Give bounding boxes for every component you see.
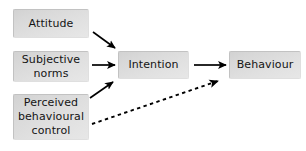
node-perceived-behavioural-control-label: Perceived behavioural control <box>15 96 87 138</box>
node-subjective-norms-label: Subjective norms <box>19 53 83 81</box>
edge-attitude-to-intention <box>93 32 115 48</box>
diagram-canvas: Attitude Subjective norms Perceived beha… <box>0 0 306 151</box>
node-subjective-norms[interactable]: Subjective norms <box>13 51 89 82</box>
edge-perceived-to-intention <box>90 82 113 98</box>
node-intention-label: Intention <box>125 58 181 72</box>
node-intention[interactable]: Intention <box>118 51 189 79</box>
node-perceived-behavioural-control[interactable]: Perceived behavioural control <box>13 94 89 140</box>
edge-perceived-to-behaviour <box>92 81 218 124</box>
node-behaviour-label: Behaviour <box>234 58 297 72</box>
node-behaviour[interactable]: Behaviour <box>229 51 301 79</box>
node-attitude-label: Attitude <box>26 17 77 31</box>
node-attitude[interactable]: Attitude <box>13 9 89 38</box>
